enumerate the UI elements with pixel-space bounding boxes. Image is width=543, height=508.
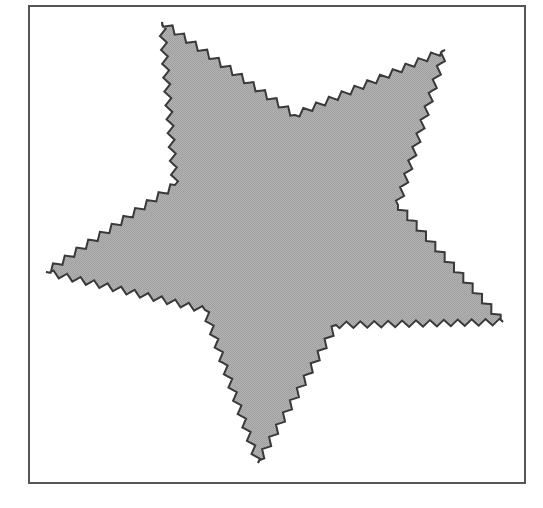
zigzag-star-shape: [0, 0, 543, 508]
figure-canvas: [0, 0, 543, 508]
star-outline: [46, 22, 503, 463]
